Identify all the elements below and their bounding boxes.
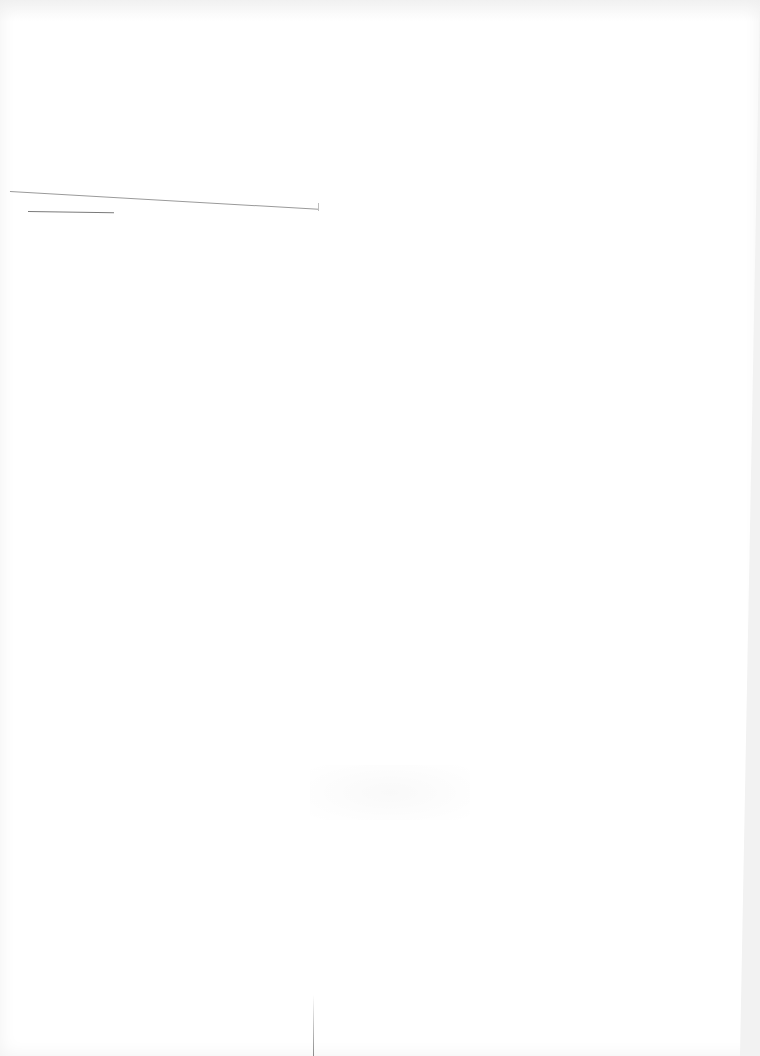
short-ruled-line — [28, 211, 114, 213]
scanned-page — [0, 0, 760, 1056]
fold-mark — [313, 995, 314, 1056]
bleed-through-smudge — [310, 765, 470, 820]
page-edge-shadow — [740, 0, 760, 1056]
rule-end-tick — [318, 203, 319, 211]
long-ruled-line — [10, 191, 319, 210]
scan-edge-shading — [0, 0, 760, 22]
